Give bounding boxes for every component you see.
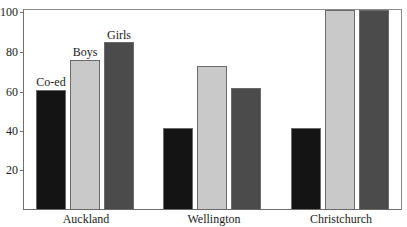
bar-wellington-coed [163,128,193,210]
series-label-coed: Co-ed [36,76,65,88]
x-label-christchurch: Christchurch [310,212,372,226]
x-label-auckland: Auckland [63,212,110,226]
y-tick-20 [20,170,24,171]
bar-auckland-boys [70,60,100,210]
y-tick-80 [20,52,24,53]
y-tick-label-40: 40 [6,125,18,137]
bar-christchurch-girls [359,10,389,210]
bar-wellington-boys [197,66,227,210]
y-tick-label-100: 100 [0,6,18,18]
y-tick-label-80: 80 [6,46,18,58]
y-tick-100 [20,12,24,13]
bar-christchurch-boys [325,10,355,210]
y-tick-60 [20,92,24,93]
bar-auckland-girls [104,42,134,210]
y-tick-40 [20,131,24,132]
y-tick-label-60: 60 [6,86,18,98]
series-label-boys: Boys [73,46,98,58]
y-tick-label-20: 20 [6,164,18,176]
series-label-girls: Girls [107,29,131,41]
x-label-wellington: Wellington [187,212,240,226]
grouped-bar-chart: 20 40 60 80 100 Co-ed Boys Girls Aucklan… [0,0,407,227]
bar-auckland-coed [36,90,66,210]
bar-wellington-girls [231,88,261,210]
bar-christchurch-coed [291,128,321,210]
